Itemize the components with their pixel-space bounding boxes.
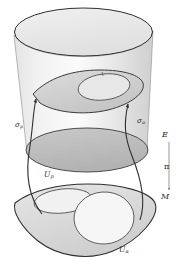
label-neighborhood-ualpha-subscript: α <box>126 248 129 254</box>
label-neighborhood-up-symbol: U <box>44 170 50 179</box>
cylinder-top-ellipse <box>15 8 153 56</box>
label-section-alpha: σα <box>137 118 145 126</box>
label-total-space: E <box>162 131 168 139</box>
label-projection: π <box>164 163 169 171</box>
diagram-canvas <box>0 0 183 266</box>
label-base-space: M <box>161 193 169 201</box>
label-section-p: σp <box>15 122 23 130</box>
base-manifold-surface <box>14 184 155 256</box>
label-neighborhood-up: Up <box>44 171 54 179</box>
fiber-bundle-diagram: E π M σp σα Up Uα <box>0 0 183 266</box>
label-neighborhood-up-subscript: p <box>51 173 54 179</box>
label-section-p-subscript: p <box>20 124 23 129</box>
label-neighborhood-ualpha-symbol: U <box>119 245 125 254</box>
label-section-alpha-subscript: α <box>142 120 145 125</box>
label-neighborhood-ualpha: Uα <box>119 246 129 254</box>
